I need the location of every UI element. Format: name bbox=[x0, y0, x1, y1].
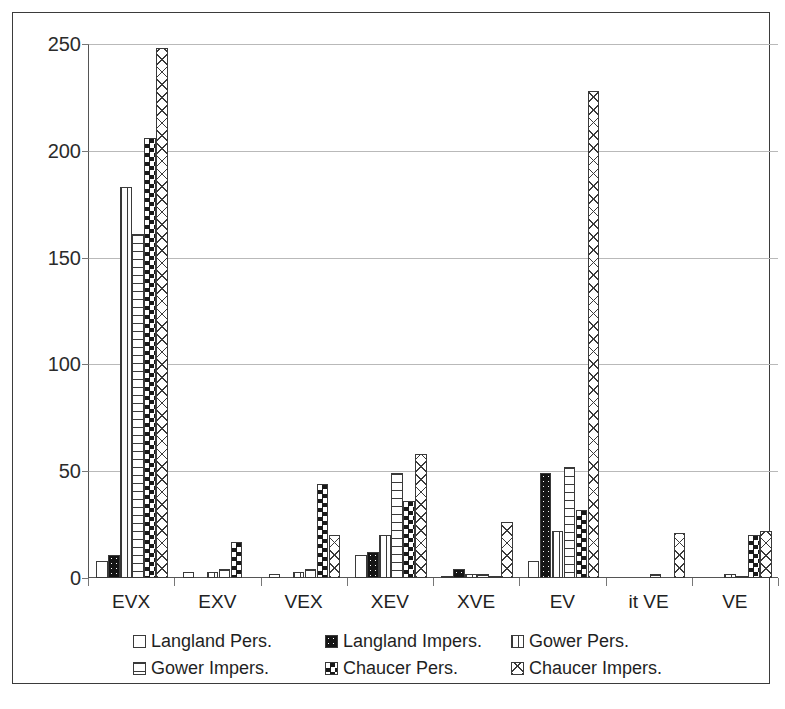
bar bbox=[415, 454, 427, 578]
y-axis-tick-label: 50 bbox=[59, 460, 81, 483]
bar bbox=[317, 484, 329, 578]
y-axis-labels: 050100150200250 bbox=[13, 44, 81, 578]
bar bbox=[144, 138, 156, 578]
chart-legend: Langland Pers.Langland Impers.Gower Pers… bbox=[133, 631, 678, 683]
x-axis-tick bbox=[347, 578, 348, 586]
x-axis-tick-label: XVE bbox=[457, 591, 495, 613]
legend-swatch-icon bbox=[133, 662, 146, 675]
bar bbox=[379, 535, 391, 578]
legend-item: Langland Pers. bbox=[133, 631, 272, 652]
legend-swatch-icon bbox=[325, 635, 338, 648]
legend-swatch-icon bbox=[511, 662, 524, 675]
bar-group bbox=[520, 44, 606, 578]
bar bbox=[528, 561, 540, 578]
bar bbox=[552, 531, 564, 578]
bar-group bbox=[693, 44, 779, 578]
x-axis-tick bbox=[261, 578, 262, 586]
figure-caption bbox=[12, 690, 312, 708]
legend-swatch-icon bbox=[325, 662, 338, 675]
legend-item-label: Langland Impers. bbox=[343, 631, 482, 652]
x-axis-tick bbox=[778, 578, 779, 586]
x-axis-tick-label: EXV bbox=[198, 591, 236, 613]
bar bbox=[453, 569, 465, 578]
legend-item: Gower Impers. bbox=[133, 658, 269, 679]
bar bbox=[305, 569, 317, 578]
x-axis-tick-label: it VE bbox=[629, 591, 669, 613]
y-axis-tick-label: 100 bbox=[48, 353, 81, 376]
x-axis-tick bbox=[88, 578, 89, 586]
legend-item: Chaucer Pers. bbox=[325, 658, 458, 679]
legend-item-label: Chaucer Pers. bbox=[343, 658, 458, 679]
bar bbox=[760, 531, 772, 578]
x-axis-tick-label: XEV bbox=[371, 591, 409, 613]
bar bbox=[748, 535, 760, 578]
bar bbox=[355, 555, 367, 578]
bar-group bbox=[434, 44, 520, 578]
x-axis-tick-label: VEX bbox=[285, 591, 323, 613]
legend-item: Gower Pers. bbox=[511, 631, 629, 652]
y-axis-tick bbox=[82, 364, 89, 365]
y-axis-tick-label: 0 bbox=[70, 567, 81, 590]
plot-area bbox=[88, 44, 778, 578]
x-axis-tick bbox=[692, 578, 693, 586]
legend-item: Langland Impers. bbox=[325, 631, 482, 652]
bar-group bbox=[348, 44, 434, 578]
legend-item-label: Gower Impers. bbox=[151, 658, 269, 679]
y-axis-tick bbox=[82, 258, 89, 259]
legend-item-label: Gower Pers. bbox=[529, 631, 629, 652]
bar bbox=[120, 187, 132, 578]
bar bbox=[391, 473, 403, 578]
y-axis-tick bbox=[82, 44, 89, 45]
x-axis-tick bbox=[519, 578, 520, 586]
y-axis-tick-label: 200 bbox=[48, 139, 81, 162]
bar-group bbox=[175, 44, 261, 578]
x-axis-tick-label: EV bbox=[550, 591, 575, 613]
legend-item-label: Langland Pers. bbox=[151, 631, 272, 652]
x-axis-tick bbox=[606, 578, 607, 586]
y-axis-tick-label: 250 bbox=[48, 33, 81, 56]
bar bbox=[132, 234, 144, 578]
bar bbox=[96, 561, 108, 578]
x-axis-tick-label: EVX bbox=[112, 591, 150, 613]
x-axis-labels: EVXEXVVEXXEVXVEEVit VEVE bbox=[88, 591, 778, 617]
chart-frame: 050100150200250 EVXEXVVEXXEVXVEEVit VEVE… bbox=[12, 12, 770, 684]
bar-group bbox=[89, 44, 175, 578]
bar bbox=[329, 535, 341, 578]
bar bbox=[156, 48, 168, 578]
legend-swatch-icon bbox=[133, 635, 146, 648]
bar bbox=[564, 467, 576, 578]
bar bbox=[219, 569, 231, 578]
legend-item-label: Chaucer Impers. bbox=[529, 658, 662, 679]
x-axis-tick bbox=[433, 578, 434, 586]
bar bbox=[588, 91, 600, 578]
bar bbox=[540, 473, 552, 578]
bar bbox=[231, 542, 243, 578]
legend-item: Chaucer Impers. bbox=[511, 658, 662, 679]
bar bbox=[576, 510, 588, 578]
bar bbox=[674, 533, 686, 578]
bar bbox=[501, 522, 513, 578]
bar-groups bbox=[89, 44, 779, 578]
y-axis-tick-label: 150 bbox=[48, 246, 81, 269]
bar-group bbox=[607, 44, 693, 578]
x-axis-tick bbox=[174, 578, 175, 586]
bar bbox=[108, 555, 120, 578]
chart-screenshot: 050100150200250 EVXEXVVEXXEVXVEEVit VEVE… bbox=[0, 0, 785, 709]
legend-swatch-icon bbox=[511, 635, 524, 648]
bar bbox=[367, 552, 379, 578]
x-axis-ticks bbox=[88, 578, 778, 588]
bar bbox=[403, 501, 415, 578]
y-axis-tick bbox=[82, 151, 89, 152]
bar-group bbox=[262, 44, 348, 578]
x-axis-tick-label: VE bbox=[722, 591, 747, 613]
y-axis-tick bbox=[82, 471, 89, 472]
